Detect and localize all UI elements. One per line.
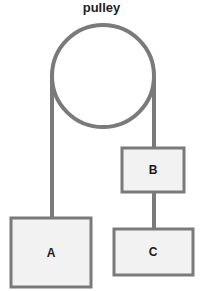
box-A-label: A xyxy=(47,246,56,260)
box-B-label: B xyxy=(149,163,158,177)
pulley-diagram: A B C xyxy=(0,0,203,291)
box-C: C xyxy=(114,229,193,275)
box-A: A xyxy=(11,218,91,287)
box-C-label: C xyxy=(149,245,158,259)
box-B: B xyxy=(122,148,184,192)
pulley-wheel xyxy=(52,25,154,127)
